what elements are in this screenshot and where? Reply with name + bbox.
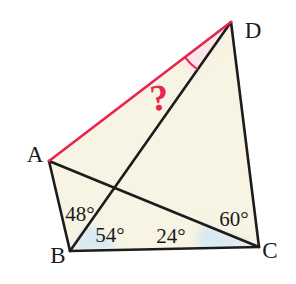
- vertex-label-c: C: [262, 238, 277, 263]
- angle-dbc-label: 54°: [95, 223, 124, 247]
- geometry-diagram: A B C D 48° 54° 24° 60° ?: [0, 0, 296, 284]
- angle-dca-label: 60°: [219, 207, 248, 231]
- vertex-label-b: B: [50, 243, 65, 268]
- figure-svg: A B C D 48° 54° 24° 60° ?: [0, 0, 296, 284]
- vertex-label-d: D: [245, 18, 262, 43]
- angle-acb-label: 24°: [156, 224, 185, 248]
- vertex-label-a: A: [27, 142, 44, 167]
- angle-abd-label: 48°: [65, 202, 94, 226]
